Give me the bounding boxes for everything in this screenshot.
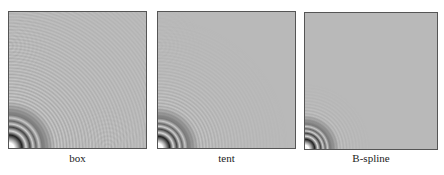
- panel-bspline-filter: [304, 12, 438, 150]
- panel-label-bspline: B-spline: [304, 152, 438, 164]
- zone-plate-rings: [305, 47, 404, 149]
- panel-box-filter: [8, 11, 147, 149]
- panel-label-box: box: [8, 152, 147, 164]
- zone-plate-rings: [9, 12, 146, 148]
- panel-tent-filter: [157, 11, 296, 149]
- panel-label-tent: tent: [157, 152, 296, 164]
- zone-plate-rings: [158, 26, 281, 148]
